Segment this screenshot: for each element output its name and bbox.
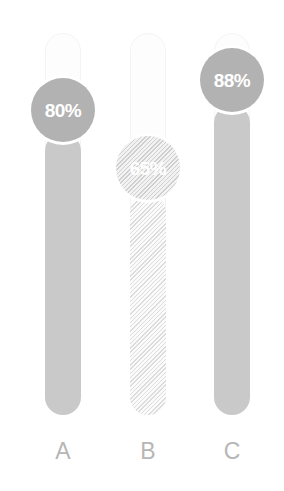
value-badge-a[interactable]: 80% <box>31 78 95 142</box>
bar-fill-b[interactable] <box>130 195 166 415</box>
bar-fill-c[interactable] <box>214 105 250 415</box>
value-badge-label-b: 65% <box>130 159 167 178</box>
bar-fill-a[interactable] <box>45 133 81 415</box>
progress-bar-chart: 80% A 65% B 88% C <box>0 0 284 491</box>
category-label-b: B <box>130 440 166 463</box>
category-label-a: A <box>45 440 81 463</box>
value-badge-label-c: 88% <box>214 71 251 90</box>
value-badge-label-a: 80% <box>45 101 82 120</box>
bar-column-c: 88% C <box>214 0 250 491</box>
value-badge-b[interactable]: 65% <box>116 136 180 200</box>
bar-column-b: 65% B <box>130 0 166 491</box>
category-label-c: C <box>214 440 250 463</box>
bar-column-a: 80% A <box>45 0 81 491</box>
value-badge-c[interactable]: 88% <box>200 48 264 112</box>
